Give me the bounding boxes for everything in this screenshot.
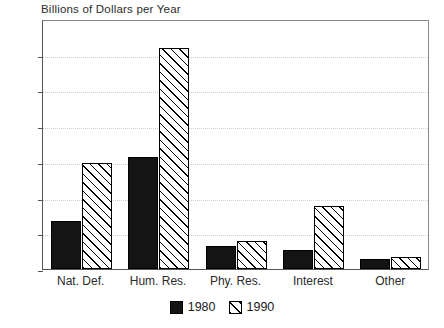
y-axis-tick <box>38 271 43 272</box>
x-axis-label: Interest <box>293 274 333 288</box>
bar-1990-interest <box>314 206 344 269</box>
y-axis-tick <box>38 200 43 201</box>
x-axis-label: Phy. Res. <box>210 274 261 288</box>
bar-chart: Billions of Dollars per Year 01002003004… <box>0 0 444 328</box>
bar-1990-phyres <box>237 241 267 269</box>
bar-1990-humres <box>159 48 189 269</box>
x-axis: Nat. Def.Hum. Res.Phy. Res.InterestOther <box>42 274 429 294</box>
bar-group <box>360 21 422 269</box>
x-axis-label: Hum. Res. <box>130 274 187 288</box>
legend-entry-1990: 1990 <box>229 300 275 314</box>
chart-title: Billions of Dollars per Year <box>41 3 181 15</box>
bar-1990-other <box>391 257 421 269</box>
bar-1980-natdef <box>51 221 81 269</box>
bar-group <box>128 21 190 269</box>
bars-layer <box>43 21 428 269</box>
chart-legend: 19801990 <box>0 300 444 314</box>
x-axis-label: Other <box>375 274 405 288</box>
bar-1990-natdef <box>82 163 112 269</box>
legend-label: 1980 <box>188 300 216 314</box>
bar-1980-interest <box>283 250 313 269</box>
x-axis-label: Nat. Def. <box>57 274 104 288</box>
y-axis-tick <box>38 57 43 58</box>
bar-1980-phyres <box>206 246 236 269</box>
solid-black-swatch <box>170 301 183 314</box>
y-axis-tick <box>38 164 43 165</box>
diagonal-hatch-swatch <box>229 301 242 314</box>
y-axis-tick <box>38 92 43 93</box>
legend-label: 1990 <box>247 300 275 314</box>
legend-entry-1980: 1980 <box>170 300 216 314</box>
plot-area <box>42 20 429 270</box>
bar-group <box>283 21 345 269</box>
bar-group <box>206 21 268 269</box>
bar-group <box>51 21 113 269</box>
y-axis-tick <box>38 128 43 129</box>
y-axis-tick <box>38 235 43 236</box>
bar-1980-humres <box>128 157 158 269</box>
bar-1980-other <box>360 259 390 269</box>
